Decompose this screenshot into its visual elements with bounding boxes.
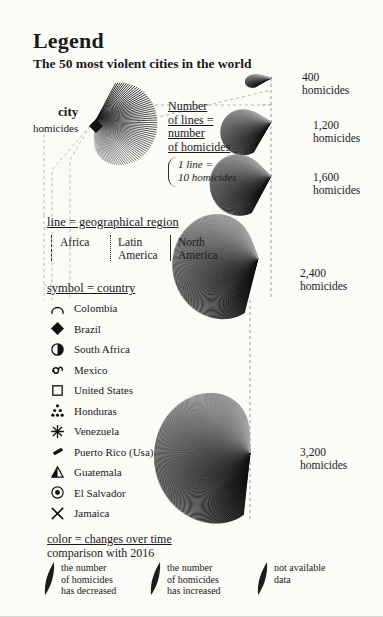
country-legend-list: ColombiaBrazilSouth AfricaMexicoUnited S… [44, 298, 153, 524]
country-legend-label: Venezuela [70, 425, 119, 437]
city-marker-label: city [58, 104, 78, 120]
shell-3200 [154, 393, 250, 523]
concentric-circle-icon [44, 483, 70, 503]
half-filled-circle-icon [44, 339, 70, 359]
country-legend-label: United States [70, 384, 133, 396]
lines-explainer: Number of lines = number of homicides [168, 100, 263, 154]
color-legend-label-decreased: the number of homicides has decreased [58, 562, 116, 597]
country-legend-label: Jamaica [70, 507, 109, 519]
country-legend-row: Mexico [44, 360, 153, 381]
country-legend-row: El Salvador [44, 483, 153, 504]
triangle-split-icon [44, 462, 70, 482]
lines-explainer-line4: of homicides [168, 141, 263, 155]
region-heading: line = geographical region [47, 215, 179, 230]
lines-explainer-line3: number [168, 127, 263, 141]
country-legend-row: Jamaica [44, 503, 153, 524]
page-title: Legend [33, 28, 104, 54]
crescent-swatch-icon [42, 562, 58, 596]
line-ratio-note: 1 line = 10 homicides [178, 158, 273, 184]
region-line-africa [51, 235, 52, 261]
arch-icon [44, 298, 70, 318]
rhombus-filled-icon [44, 442, 70, 462]
country-legend-label: Brazil [70, 323, 101, 335]
color-legend-heading: color = changes over time [47, 532, 172, 547]
lines-explainer-line2: of lines = [168, 114, 263, 128]
color-legend-item-decreased: the number of homicides has decreased [42, 562, 116, 597]
scale-label-1200: 1,200 homicides [313, 119, 360, 145]
color-legend-item-increased: the number of homicides has increased [148, 562, 221, 597]
diamond-icon [44, 319, 70, 339]
country-legend-label: Puerto Rico (Usa) [70, 446, 153, 458]
country-legend-row: Colombia [44, 298, 153, 319]
swirl-icon [44, 360, 70, 380]
country-legend-row: South Africa [44, 339, 153, 360]
crescent-swatch-icon [148, 562, 164, 596]
color-legend-item-unavailable: not available data [255, 562, 325, 596]
country-legend-label: South Africa [70, 343, 130, 355]
crescent-swatch-icon [255, 562, 271, 596]
legend-page: Legend The 50 most violent cities in the… [0, 0, 383, 617]
color-legend-label-increased: the number of homicides has increased [164, 562, 221, 597]
scale-label-2400: 2,400 homicides [300, 267, 347, 293]
scale-label-1600: 1,600 homicides [313, 171, 360, 197]
country-legend-row: Guatemala [44, 462, 153, 483]
shell-2400 [173, 214, 258, 318]
country-legend-label: Guatemala [70, 466, 122, 478]
region-label-latin-america: Latin America [118, 236, 170, 262]
region-line-north-america [170, 235, 171, 261]
country-legend-row: United States [44, 380, 153, 401]
country-legend-row: Brazil [44, 319, 153, 340]
country-heading: symbol = country [47, 281, 135, 296]
country-legend-label: Honduras [70, 405, 117, 417]
city-marker-homicides-label: homicides [33, 122, 78, 134]
region-label-north-america: North America [178, 236, 233, 262]
country-legend-label: Mexico [70, 364, 108, 376]
scale-label-400: 400 homicides [302, 71, 349, 97]
cross-x-icon [44, 503, 70, 523]
scale-label-3200: 3,200 homicides [300, 446, 347, 472]
square-outline-icon [44, 380, 70, 400]
diamond-marker-icon [88, 118, 104, 134]
lines-explainer-line1: Number [168, 100, 263, 114]
color-legend-subheading: comparison with 2016 [47, 546, 154, 561]
country-legend-label: El Salvador [70, 487, 126, 499]
country-legend-row: Puerto Rico (Usa) [44, 442, 153, 463]
country-legend-row: Honduras [44, 401, 153, 422]
country-legend-label: Colombia [70, 302, 117, 314]
brace-decoration [168, 157, 178, 187]
shell-400 [245, 75, 271, 88]
dot-cluster-icon [44, 401, 70, 421]
page-subtitle: The 50 most violent cities in the world [33, 56, 252, 72]
color-legend-label-unavailable: not available data [271, 562, 325, 585]
country-legend-row: Venezuela [44, 421, 153, 442]
region-label-africa: Africa [60, 236, 115, 249]
star-burst-icon [44, 421, 70, 441]
